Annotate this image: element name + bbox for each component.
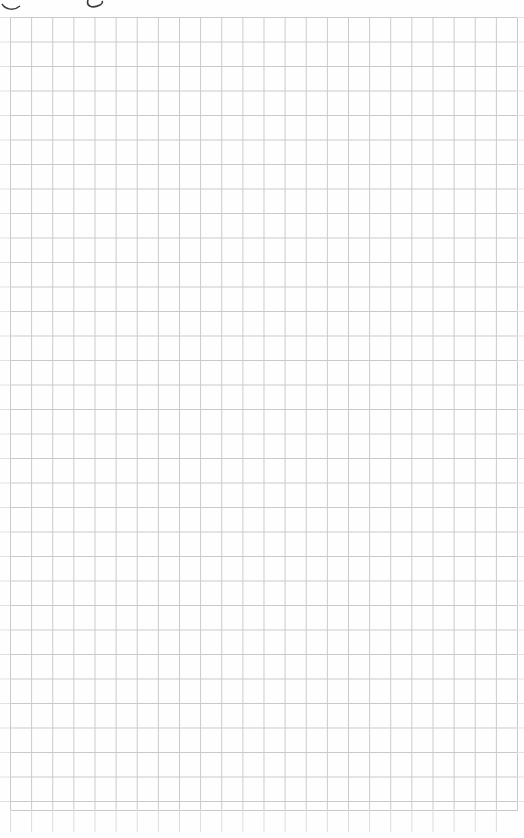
left-margin-ticks <box>0 17 10 810</box>
grid-area <box>10 17 518 811</box>
handwriting-fragment <box>0 0 524 16</box>
bottom-grid-extensions <box>10 810 517 832</box>
graph-paper-page <box>0 0 524 838</box>
right-margin-ticks <box>517 17 524 810</box>
